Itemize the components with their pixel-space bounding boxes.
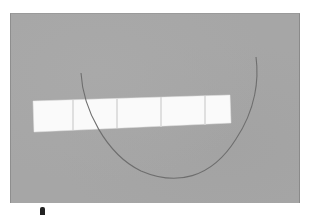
paper-strip bbox=[33, 95, 231, 132]
photo-content bbox=[11, 14, 301, 204]
corner-mark bbox=[40, 207, 45, 215]
photograph bbox=[10, 13, 300, 203]
